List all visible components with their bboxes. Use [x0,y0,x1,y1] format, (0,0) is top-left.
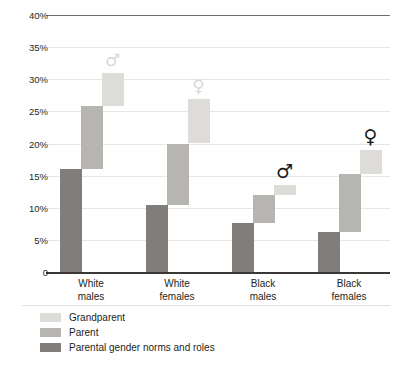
gender-symbol-icon: ♀ [192,78,204,95]
category-label: Blackmales [215,278,311,303]
category-label-line: females [129,291,225,304]
y-tick-label: 0 [4,267,48,278]
gridline-30 [46,79,390,80]
y-tick-label: 40% [4,10,48,21]
gender-symbol-icon: ♀ [364,127,378,146]
category-label-line: females [301,291,397,304]
legend-item: Parent [40,325,215,340]
bar-segment [318,232,340,272]
x-axis-baseline [46,272,390,274]
y-tick-label: 20% [4,138,48,149]
legend-swatch-icon [40,328,61,337]
gender-symbol-icon: ♂ [105,52,120,69]
legend-label: Grandparent [69,312,125,323]
bar-segment [339,174,361,232]
legend-swatch-icon [40,313,61,322]
legend-divider [22,305,390,306]
category-label-line: White [129,278,225,291]
category-label-line: White [43,278,139,291]
gridline-35 [46,47,390,48]
y-tick-label: 35% [4,42,48,53]
legend-item: Parental gender norms and roles [40,340,215,355]
legend-item: Grandparent [40,310,215,325]
legend-label: Parent [69,327,98,338]
chart-container: 40%35%30%25%20%15%10%5%0 ♂♀♂♀ Whitemales… [0,0,400,367]
y-tick-label: 15% [4,170,48,181]
bar-segment [274,185,296,195]
category-label-line: Black [301,278,397,291]
y-tick-label: 30% [4,74,48,85]
category-label: Blackfemales [301,278,397,303]
category-label-line: males [215,291,311,304]
category-label-line: males [43,291,139,304]
bar-segment [146,205,168,272]
chart-legend: GrandparentParentParental gender norms a… [40,310,215,355]
bar-segment [232,223,254,272]
legend-swatch-icon [40,343,61,352]
legend-label: Parental gender norms and roles [69,342,215,353]
bar-segment [167,144,189,205]
bar-segment [188,99,210,144]
gridline-40 [46,15,390,16]
y-tick-label: 25% [4,106,48,117]
bar-segment [253,195,275,223]
gender-symbol-icon: ♂ [276,162,293,181]
bar-segment [360,150,382,174]
category-label-line: Black [215,278,311,291]
bar-segment [60,169,82,272]
bar-segment [102,73,124,106]
bar-segment [81,106,103,169]
y-tick-label: 10% [4,202,48,213]
category-label: Whitemales [43,278,139,303]
y-tick-label: 5% [4,234,48,245]
category-label: Whitefemales [129,278,225,303]
